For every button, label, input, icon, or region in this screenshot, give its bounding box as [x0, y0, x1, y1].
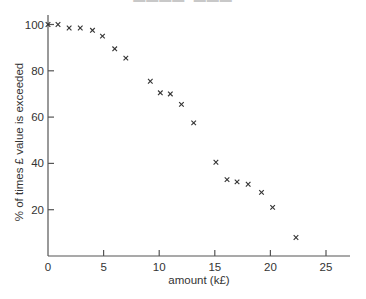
data-point-marker: [214, 160, 219, 165]
data-point-marker: [100, 34, 105, 39]
y-tick-label: 100: [25, 19, 44, 31]
data-point-marker: [148, 79, 153, 84]
x-tick-label: 20: [264, 261, 277, 273]
axes: 051015202520406080100: [25, 15, 350, 273]
data-point-marker: [168, 92, 173, 97]
x-tick-label: 5: [100, 261, 106, 273]
x-tick-label: 25: [320, 261, 333, 273]
data-point-marker: [67, 26, 72, 31]
x-axis-label: amount (k£): [168, 274, 230, 286]
data-point-marker: [124, 56, 129, 61]
data-point-marker: [259, 190, 264, 195]
data-point-marker: [179, 102, 184, 107]
data-point-marker: [78, 26, 83, 31]
data-point-marker: [90, 28, 95, 33]
data-point-marker: [191, 121, 196, 126]
data-point-marker: [112, 47, 117, 52]
y-tick-label: 40: [31, 157, 44, 169]
y-tick-label: 60: [31, 111, 44, 123]
x-tick-label: 15: [208, 261, 221, 273]
x-tick-label: 0: [45, 261, 51, 273]
data-point-marker: [158, 90, 163, 95]
data-point-marker: [246, 182, 251, 187]
y-axis-label: % of times £ value is exceeded: [13, 63, 25, 222]
y-tick-label: 20: [31, 204, 44, 216]
data-point-marker: [235, 180, 240, 185]
data-point-marker: [225, 177, 230, 182]
y-tick-label: 80: [31, 65, 44, 77]
data-points: [46, 22, 299, 240]
x-tick-label: 10: [153, 261, 166, 273]
data-point-marker: [270, 205, 275, 210]
scatter-chart: 051015202520406080100 amount (k£) % of t…: [0, 0, 366, 299]
data-point-marker: [56, 22, 61, 27]
data-point-marker: [294, 235, 299, 240]
